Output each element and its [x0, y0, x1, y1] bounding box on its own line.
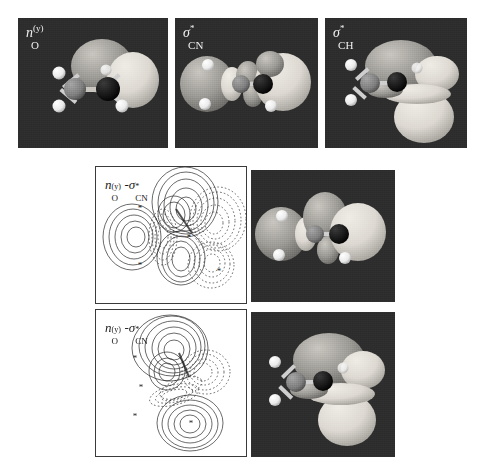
panel-label-no-y-superscript: (y) [33, 23, 44, 33]
panel-label-sigma-star-ch: σ* CH [333, 24, 354, 51]
svg-text:*: * [133, 353, 138, 363]
svg-text:*: * [138, 203, 143, 213]
svg-text:*: * [138, 260, 143, 270]
panel-label-no-y-base: n(y) [26, 24, 44, 40]
panel-iso-lower [251, 312, 395, 457]
panel-label-sigma-star-cn-base: σ* [183, 24, 204, 40]
panel-sigma-star-ch: σ* CH [325, 18, 467, 148]
panel-label-sigma-star-ch-superscript: * [340, 23, 345, 33]
panel-label-no-y-subscript: O [31, 40, 44, 51]
panel-no-y: n(y) O [18, 18, 168, 148]
svg-text:*: * [189, 418, 194, 428]
svg-text:*: * [139, 382, 144, 392]
panel-label-sigma-star-ch-subscript: CH [338, 40, 354, 51]
panel-contour-lower: * * * * n(y)O-σ*CN [95, 309, 247, 457]
panel-label-sigma-star-cn-subscript: CN [188, 40, 204, 51]
panel-iso-upper [251, 170, 395, 302]
panel-label-sigma-star-ch-base: σ* [333, 24, 354, 40]
svg-text:*: * [133, 411, 138, 421]
panel-contour-upper: * * * * n(y)O-σ*CN [95, 166, 247, 304]
panel-label-sigma-star-cn-superscript: * [190, 23, 195, 33]
isosurface-lower [251, 312, 395, 457]
panel-sigma-star-cn: σ* CN [175, 18, 318, 148]
panel-label-contour-upper: n(y)O-σ*CN [105, 176, 151, 192]
molecular-orbital-figure: n(y) O σ* CN [0, 0, 485, 470]
isosurface-upper [251, 170, 395, 302]
svg-text:*: * [187, 232, 192, 242]
panel-label-sigma-star-cn: σ* CN [183, 24, 204, 51]
svg-text:*: * [217, 266, 222, 276]
panel-label-contour-lower: n(y)O-σ*CN [105, 319, 151, 335]
panel-label-no-y: n(y) O [26, 24, 44, 51]
